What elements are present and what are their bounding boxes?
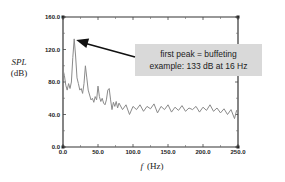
annotation-line-1: first peak = buffeting bbox=[160, 49, 237, 59]
x-axis-var: f bbox=[140, 161, 144, 171]
x-axis-title: f (Hz) bbox=[140, 161, 163, 171]
y-tick-label: 120.0 bbox=[45, 47, 61, 53]
x-axis-ticks: 0.050.0100.0150.0200.0250.0 bbox=[59, 17, 246, 155]
y-tick-label: 160.0 bbox=[45, 14, 61, 20]
annotation-line-2: example: 133 dB at 16 Hz bbox=[150, 61, 248, 71]
y-tick-label: 40.0 bbox=[48, 112, 60, 118]
annotation-box: first peak = buffeting example: 133 dB a… bbox=[135, 44, 262, 76]
x-tick-label: 150.0 bbox=[160, 149, 176, 155]
spl-chart: 0.040.080.0120.0160.0 0.050.0100.0150.02… bbox=[0, 0, 285, 182]
x-tick-label: 50.0 bbox=[92, 149, 104, 155]
x-tick-label: 200.0 bbox=[195, 149, 211, 155]
y-axis-unit: (dB) bbox=[11, 68, 28, 78]
x-axis-unit: (Hz) bbox=[147, 161, 164, 171]
x-tick-label: 250.0 bbox=[230, 149, 246, 155]
x-tick-label: 100.0 bbox=[125, 149, 141, 155]
y-axis-title: SPL (dB) bbox=[11, 57, 28, 78]
y-tick-label: 80.0 bbox=[48, 79, 60, 85]
arrowhead-icon bbox=[76, 38, 89, 48]
y-axis-ticks: 0.040.080.0120.0160.0 bbox=[45, 14, 238, 150]
x-tick-label: 0.0 bbox=[59, 149, 68, 155]
plot-frame bbox=[62, 16, 240, 149]
y-axis-var: SPL bbox=[11, 57, 26, 67]
annotation-arrow bbox=[76, 38, 135, 57]
